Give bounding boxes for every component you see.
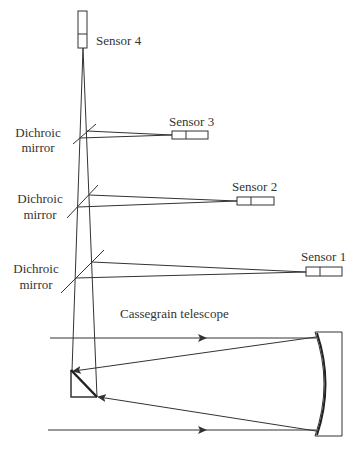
sensor-2-label: Sensor 2 <box>232 179 277 194</box>
sensor-2-beam <box>78 195 237 207</box>
sensor-3 <box>172 131 208 139</box>
diagram-canvas: Sensor 4 Sensor 3 Dichroic mirror Sensor… <box>0 0 363 449</box>
sensor-3-beam <box>80 131 172 138</box>
cassegrain-dichroic-sensor-diagram: Sensor 4 Sensor 3 Dichroic mirror Sensor… <box>0 0 363 449</box>
dichroic-mirror-3-label-line2: mirror <box>19 277 53 292</box>
dichroic-mirror-3-label-line1: Dichroic <box>13 261 59 276</box>
dichroic-mirror-2 <box>67 185 98 218</box>
cassegrain-telescope-label: Cassegrain telescope <box>120 306 229 321</box>
dichroic-mirror-3 <box>61 250 104 293</box>
reflected-ray-top <box>74 337 316 371</box>
dichroic-mirror-1 <box>73 124 96 144</box>
sensor-4-label: Sensor 4 <box>96 33 142 48</box>
sensor-1 <box>306 267 342 276</box>
primary-mirror <box>315 332 342 436</box>
main-beam <box>72 48 97 397</box>
dichroic-mirror-2-label-line1: Dichroic <box>17 191 63 206</box>
sensor-2 <box>237 197 274 205</box>
secondary-diagonal-mirror <box>71 370 97 397</box>
reflected-ray-bottom <box>99 397 316 431</box>
dichroic-mirror-2-label-line2: mirror <box>23 207 57 222</box>
sensor-1-beam <box>76 262 306 278</box>
dichroic-mirror-1-label-line1: Dichroic <box>15 125 61 140</box>
sensor-4 <box>78 11 87 48</box>
dichroic-mirror-1-label-line2: mirror <box>21 140 55 155</box>
sensor-4-housing <box>78 11 87 48</box>
sensor-1-label: Sensor 1 <box>301 249 346 264</box>
sensor-3-label: Sensor 3 <box>169 114 214 129</box>
